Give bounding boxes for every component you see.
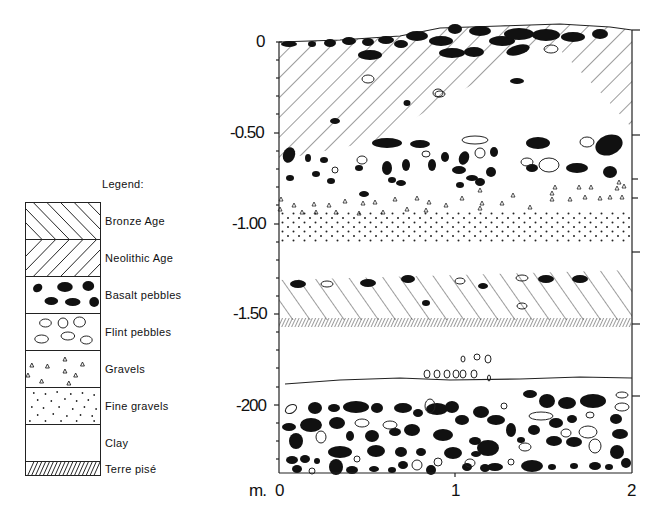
- stratigraphic-section: [0, 0, 668, 529]
- layer-terre-pise: [279, 318, 631, 327]
- layer-neolithic-age: [279, 270, 632, 327]
- layer-fine-gravels: [279, 210, 631, 242]
- layer-bronze-age: [279, 24, 632, 160]
- layer-gravels: [278, 180, 626, 215]
- layer-clay-flint: [285, 354, 632, 384]
- layer-pebbles-lower: [282, 390, 631, 475]
